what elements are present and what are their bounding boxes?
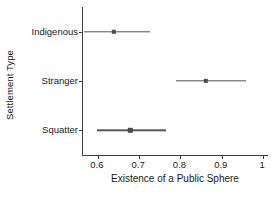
x-axis-tick-label: 0.8 — [173, 159, 186, 170]
y-axis-tick-label-stranger: Stranger — [16, 76, 78, 86]
x-axis-tick-label: 1 — [259, 159, 264, 170]
x-axis-tick-label: 0.9 — [214, 159, 227, 170]
forest-plot-chart: Settlement Type IndigenousStrangerSquatt… — [0, 0, 275, 199]
y-axis-tick-label-indigenous: Indigenous — [16, 27, 78, 37]
y-axis-tick-mark — [79, 81, 83, 82]
point-estimate-marker — [204, 79, 208, 83]
point-estimate-marker — [111, 29, 115, 33]
x-axis-tick-label: 0.7 — [132, 159, 145, 170]
point-estimate-marker — [128, 128, 132, 132]
plot-area — [82, 7, 268, 156]
confidence-interval-line — [176, 80, 245, 81]
y-axis-tick-mark — [79, 32, 83, 33]
y-axis-tick-mark — [79, 130, 83, 131]
y-axis-tick-label-group: IndigenousStrangerSquatter — [14, 0, 78, 199]
y-axis-tick-label-squatter: Squatter — [16, 125, 78, 135]
x-axis-title: Existence of a Public Sphere — [82, 173, 268, 184]
confidence-interval-line — [84, 31, 150, 32]
x-axis-tick-label: 0.6 — [90, 159, 103, 170]
